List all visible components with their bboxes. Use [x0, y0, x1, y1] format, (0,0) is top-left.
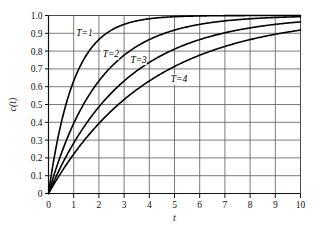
y-tick-label: 0.5: [31, 100, 43, 110]
grid-layer: [49, 16, 301, 194]
line-chart: 00.10.20.30.40.50.60.70.80.91.0 01234567…: [0, 0, 321, 230]
x-tick-label: 9: [273, 200, 278, 210]
x-tick-label: 5: [172, 200, 177, 210]
chart-figure: 00.10.20.30.40.50.60.70.80.91.0 01234567…: [0, 0, 321, 230]
x-tick-label: 1: [71, 200, 76, 210]
x-tick-label: 7: [223, 200, 228, 210]
x-axis-title: t: [173, 212, 176, 223]
x-tick-label: 0: [46, 200, 51, 210]
y-tick-label: 0.7: [31, 64, 43, 74]
x-tick-label: 3: [122, 200, 127, 210]
y-tick-label: 0.6: [31, 82, 43, 92]
y-tick-label: 0.2: [31, 153, 43, 163]
tick-marks: [45, 16, 301, 199]
x-tick-label: 2: [97, 200, 102, 210]
x-tick-label: 8: [248, 200, 253, 210]
y-tick-label: 0.8: [31, 47, 43, 57]
y-tick-label: 0.1: [31, 171, 43, 181]
y-tick-label: 1.0: [31, 11, 43, 21]
curve-label-t3: T=3: [130, 55, 147, 65]
y-tick-label: 0.3: [31, 136, 43, 146]
y-tick-label: 0.4: [31, 118, 43, 128]
x-tick-label: 4: [147, 200, 152, 210]
curve-label-t4: T=4: [171, 74, 188, 84]
y-axis-title: c(t): [7, 97, 19, 112]
curve-label-t2: T=2: [103, 49, 120, 59]
x-axis-tick-labels: 012345678910: [46, 200, 305, 210]
curve-label-t1: T=1: [76, 28, 92, 38]
y-tick-label: 0.9: [31, 29, 43, 39]
y-tick-label: 0: [38, 189, 43, 199]
x-tick-label: 10: [296, 200, 306, 210]
y-axis-tick-labels: 00.10.20.30.40.50.60.70.80.91.0: [31, 11, 43, 199]
x-tick-label: 6: [197, 200, 202, 210]
